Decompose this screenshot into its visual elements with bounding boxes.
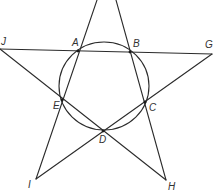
label-C: C bbox=[149, 103, 156, 113]
label-A: A bbox=[72, 38, 79, 48]
point-C bbox=[144, 101, 147, 104]
point-E bbox=[61, 99, 64, 102]
line-J-H bbox=[0, 49, 166, 180]
line-top-right-H bbox=[116, 0, 166, 180]
label-E: E bbox=[53, 101, 60, 111]
label-J: J bbox=[1, 37, 6, 47]
pentagram-diagram bbox=[0, 0, 214, 194]
label-B: B bbox=[133, 39, 140, 49]
label-I: I bbox=[28, 180, 31, 190]
point-D bbox=[102, 130, 105, 133]
inscribed-circle bbox=[59, 42, 149, 130]
line-top-left-I bbox=[36, 0, 97, 179]
point-A bbox=[77, 50, 80, 53]
label-G: G bbox=[205, 40, 213, 50]
line-G-I bbox=[36, 54, 212, 179]
label-H: H bbox=[168, 182, 175, 192]
line-J-G bbox=[0, 49, 212, 54]
label-D: D bbox=[99, 135, 106, 145]
point-B bbox=[129, 51, 132, 54]
star-lines bbox=[0, 0, 212, 180]
